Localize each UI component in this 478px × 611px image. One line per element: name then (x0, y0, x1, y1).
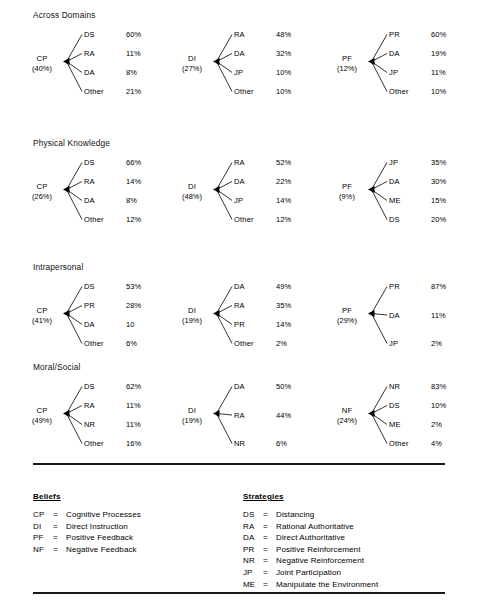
leaf-value: 10% (431, 87, 446, 96)
legend-definition: Positive Reinforcement (276, 545, 360, 554)
root-code: DI (172, 306, 212, 316)
leaf-code: Other (389, 439, 409, 448)
tree-leaf: DA49% (234, 282, 326, 293)
tree-leaf: RA14% (84, 177, 176, 188)
legend-abbreviation: DA (243, 533, 261, 542)
leaf-value: 10% (431, 401, 446, 410)
tree-root: PF(29%) (327, 306, 367, 325)
tree-leaf: Other10% (389, 87, 478, 98)
leaf-code: DA (84, 68, 95, 77)
tree-root: CP(26%) (22, 182, 62, 201)
legend-abbreviation: NR (243, 556, 261, 565)
leaf-value: 2% (431, 339, 442, 348)
section-title: Intrapersonal (33, 262, 83, 272)
legend-column-strategies: StrategiesDS=DistancingRA=Rational Autho… (243, 492, 284, 591)
tree-leaf: DA8% (84, 196, 176, 207)
leaf-code: JP (389, 339, 398, 348)
legend-equals-sign: = (53, 545, 58, 554)
legend-equals-sign: = (263, 522, 268, 531)
legend-row: NR=Negative Reinforcement (243, 556, 284, 568)
tree-leaf: DA50% (234, 382, 326, 393)
leaf-value: 14% (276, 320, 291, 329)
leaf-code: DA (84, 196, 95, 205)
leaf-value: 11% (126, 401, 141, 410)
root-percentage: (19%) (172, 416, 212, 425)
legend-abbreviation: ME (243, 580, 261, 589)
leaf-code: Other (234, 339, 254, 348)
leaf-value: 21% (126, 87, 141, 96)
leaf-code: Other (234, 87, 254, 96)
leaf-code: NR (389, 382, 400, 391)
leaf-value: 53% (126, 282, 141, 291)
leaf-code: DA (389, 177, 400, 186)
tree-leaf: ME2% (389, 420, 478, 431)
legend-abbreviation: DI (33, 522, 51, 531)
legend-definition: Rational Authoritative (276, 522, 354, 531)
legend-row: PF=Positive Feedback (33, 533, 61, 545)
root-percentage: (9%) (327, 192, 367, 201)
leaf-value: 6% (276, 439, 287, 448)
leaf-value: 11% (431, 311, 446, 320)
tree-leaf: Other4% (389, 439, 478, 450)
tree-leaf: RA11% (84, 401, 176, 412)
root-code: DI (172, 54, 212, 64)
leaf-code: RA (234, 411, 245, 420)
leaf-code: DA (234, 49, 245, 58)
legend-definition: Negative Reinforcement (276, 556, 364, 565)
legend-row: ME=Manipulate the Environment (243, 580, 284, 592)
arrow-head (213, 310, 220, 317)
legend-title-strategies: Strategies (243, 492, 284, 501)
root-code: CP (22, 54, 62, 64)
leaf-code: DS (84, 30, 95, 39)
leaf-value: 28% (126, 301, 141, 310)
arrow-head (368, 58, 375, 65)
legend-row: NF=Negative Feedback (33, 545, 61, 557)
leaf-code: PR (84, 301, 95, 310)
leaf-code: ME (389, 420, 401, 429)
leaf-code: Other (84, 87, 104, 96)
leaf-value: 12% (126, 215, 141, 224)
tree-leaf: Other12% (234, 215, 326, 226)
tree-leaf: JP11% (389, 68, 478, 79)
root-code: DI (172, 182, 212, 192)
root-percentage: (12%) (327, 64, 367, 73)
leaf-value: 66% (126, 158, 141, 167)
root-percentage: (48%) (172, 192, 212, 201)
legend-abbreviation: PF (33, 533, 51, 542)
legend-abbreviation: RA (243, 522, 261, 531)
tree-leaf: NR11% (84, 420, 176, 431)
tree-leaf: RA52% (234, 158, 326, 169)
legend-definition: Positive Feedback (66, 533, 133, 542)
legend-equals-sign: = (263, 556, 268, 565)
legend-row: DA=Direct Authoritative (243, 533, 284, 545)
leaf-code: Other (84, 439, 104, 448)
leaf-code: DA (389, 49, 400, 58)
root-percentage: (27%) (172, 64, 212, 73)
root-percentage: (19%) (172, 316, 212, 325)
legend-abbreviation: CP (33, 510, 51, 519)
root-code: PF (327, 306, 367, 316)
figure-page: Across DomainsCP(40%)DS60%RA11%DA8%Other… (0, 0, 478, 611)
legend-equals-sign: = (263, 510, 268, 519)
leaf-value: 10% (276, 87, 291, 96)
leaf-code: NR (234, 439, 245, 448)
leaf-value: 6% (126, 339, 137, 348)
arrow-head (63, 410, 70, 417)
leaf-value: 20% (431, 215, 446, 224)
arrow-head (63, 310, 70, 317)
leaf-value: 10% (276, 68, 291, 77)
leaf-code: DA (234, 177, 245, 186)
tree-leaf: DA8% (84, 68, 176, 79)
horizontal-rule (33, 463, 445, 465)
arrow-head (213, 58, 220, 65)
root-percentage: (49%) (22, 416, 62, 425)
tree-leaf: DA11% (389, 311, 478, 322)
legend-definition: Direct Authoritative (276, 533, 345, 542)
root-code: CP (22, 306, 62, 316)
horizontal-rule (33, 592, 445, 594)
leaf-value: 22% (276, 177, 291, 186)
tree-root: CP(41%) (22, 306, 62, 325)
leaf-value: 60% (431, 30, 446, 39)
tree-leaf: JP10% (234, 68, 326, 79)
belief-tree: NF(24%)NR83%DS10%ME2%Other4% (327, 380, 477, 452)
